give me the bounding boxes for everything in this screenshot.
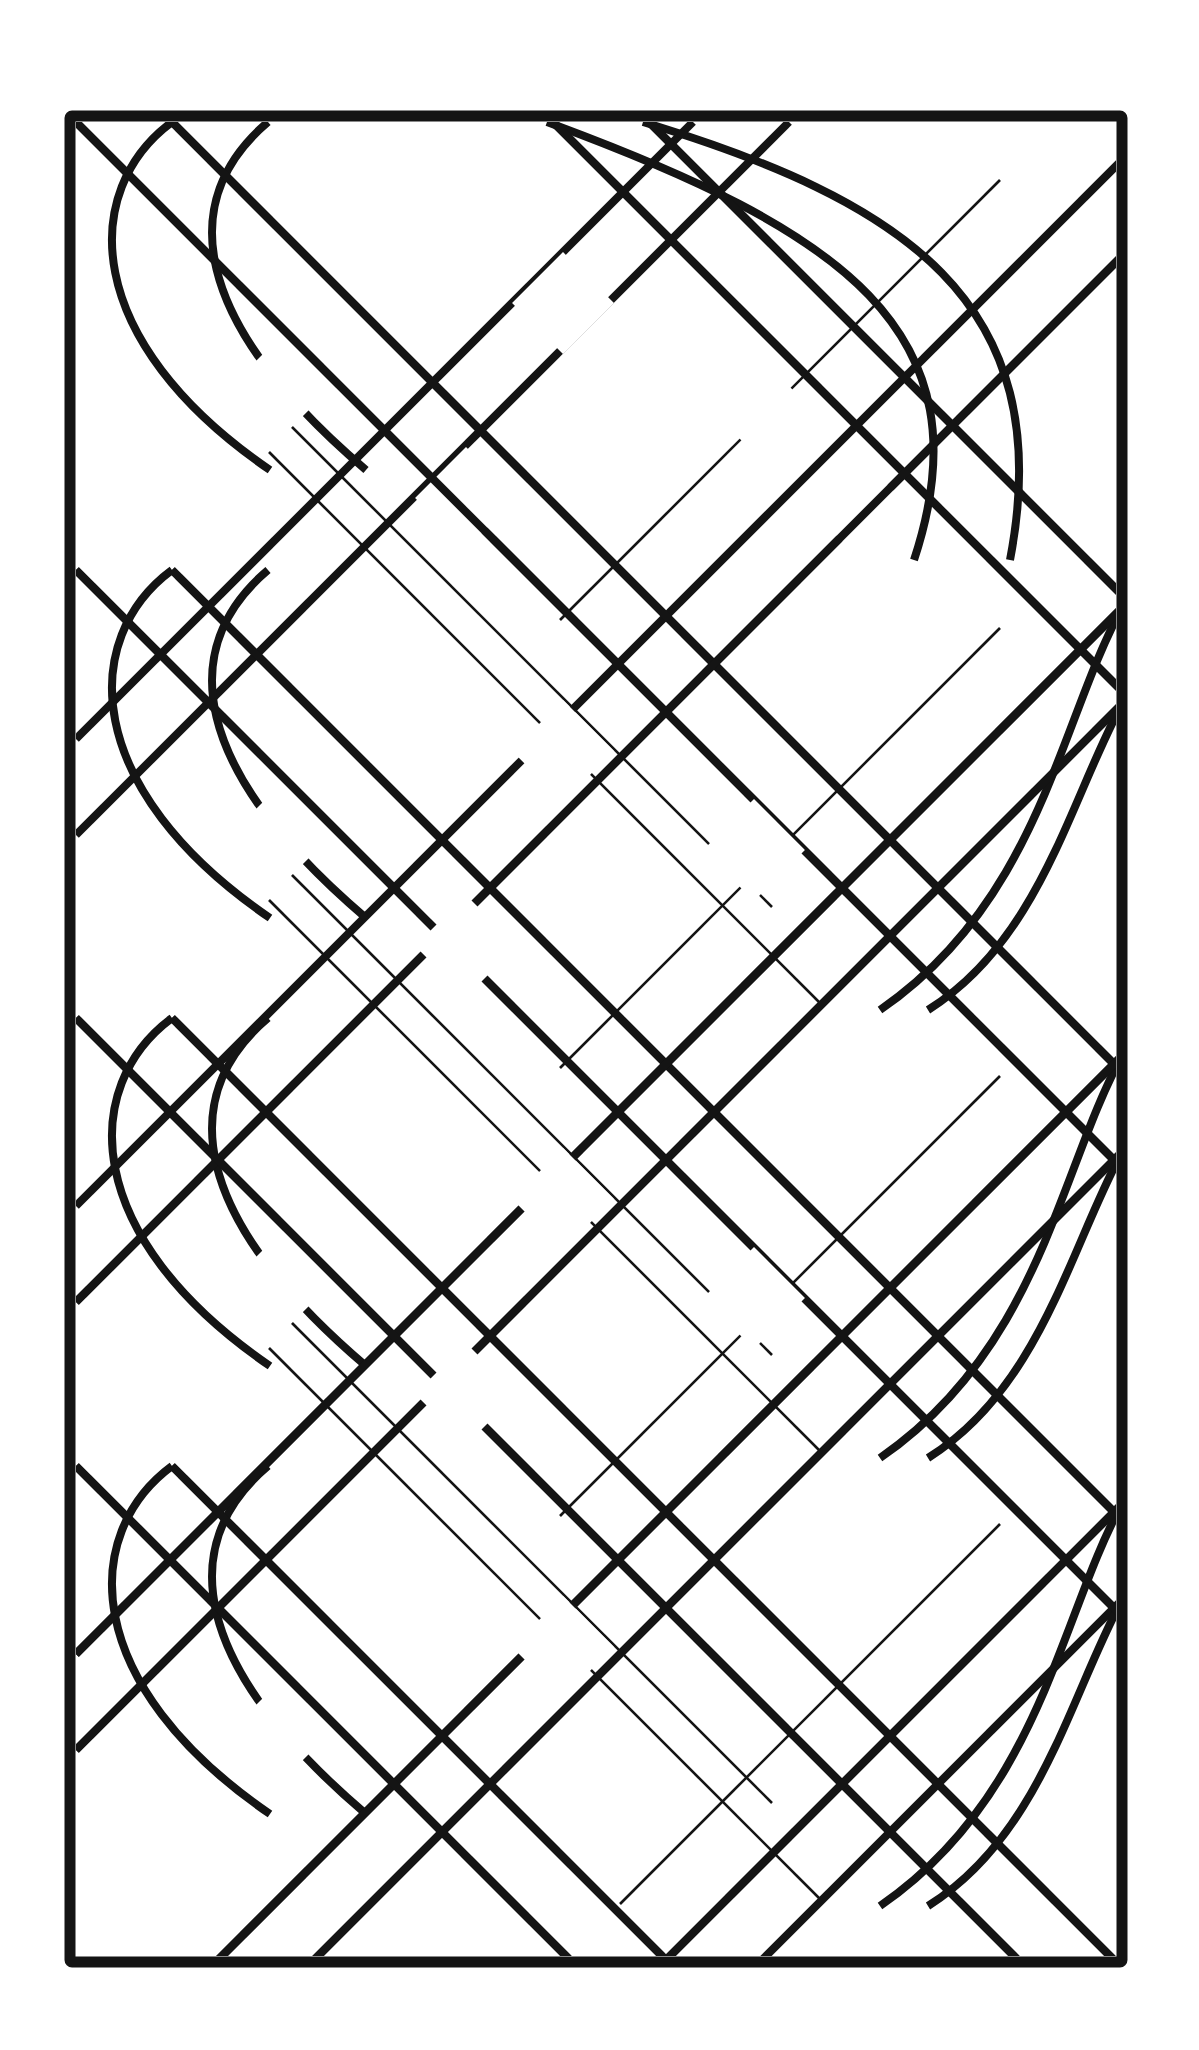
drawing-canvas: .heavy { fill:none; stroke:#141414; stro… <box>0 0 1199 2050</box>
interlace-pattern-illustration: .heavy { fill:none; stroke:#141414; stro… <box>0 0 1199 2050</box>
